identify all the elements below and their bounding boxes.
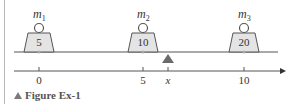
caption-text: Figure Ex-1 [25, 89, 81, 101]
fulcrum-triangle-icon [162, 54, 174, 63]
weight-value-m3: 20 [232, 36, 256, 48]
figure-caption: Figure Ex-1 [14, 89, 81, 101]
caption-triangle-icon [14, 92, 22, 99]
axis-arrow-icon [280, 68, 286, 74]
tick-label-x: x [158, 74, 178, 86]
weight-value-m1: 5 [27, 36, 51, 48]
mass-label-m1: m1 [33, 7, 46, 23]
tick-label-10: 10 [234, 74, 254, 86]
weight-value-m2: 10 [131, 36, 155, 48]
mass-label-m3: m3 [238, 7, 251, 23]
tick-label-0: 0 [29, 74, 49, 86]
tick-label-5: 5 [133, 74, 153, 86]
mass-label-m2: m2 [137, 7, 150, 23]
